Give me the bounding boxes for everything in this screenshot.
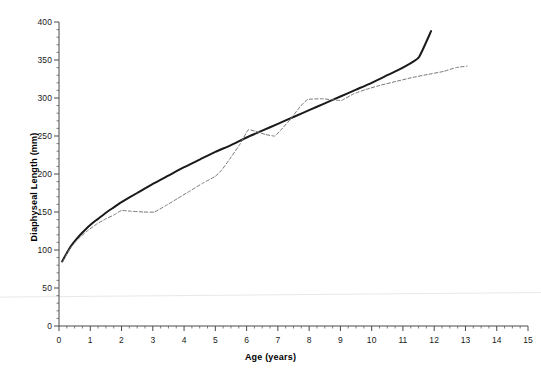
x-axis-title: Age (years) <box>0 352 541 362</box>
x-tick-label: 6 <box>235 336 259 345</box>
y-tick-label: 400 <box>16 18 52 27</box>
y-tick-label: 350 <box>16 56 52 65</box>
x-tick-label: 14 <box>485 336 509 345</box>
x-tick-label: 12 <box>422 336 446 345</box>
y-axis-title: Diaphyseal Length (mm) <box>29 87 39 287</box>
scan-artifact-hairline <box>0 293 541 298</box>
x-tick-label: 11 <box>391 336 415 345</box>
x-tick-label: 5 <box>203 336 227 345</box>
series-solid-reference-curve <box>62 31 431 261</box>
x-axis-tick-labels: 0123456789101112131415 <box>0 336 541 350</box>
x-tick-label: 1 <box>78 336 102 345</box>
x-tick-label: 3 <box>141 336 165 345</box>
x-tick-label: 13 <box>453 336 477 345</box>
data-series-group <box>62 31 467 261</box>
x-tick-label: 8 <box>297 336 321 345</box>
x-tick-label: 2 <box>110 336 134 345</box>
x-tick-label: 4 <box>172 336 196 345</box>
x-tick-label: 7 <box>266 336 290 345</box>
x-tick-label: 10 <box>360 336 384 345</box>
y-tick-label: 0 <box>16 322 52 331</box>
x-tick-label: 0 <box>47 336 71 345</box>
axis-lines-and-ticks <box>54 22 528 331</box>
series-dashed-individual-curve <box>63 66 467 261</box>
x-tick-label: 9 <box>328 336 352 345</box>
plot-area <box>0 0 541 380</box>
x-tick-label: 15 <box>516 336 540 345</box>
diaphyseal-length-chart: 050100150200250300350400 012345678910111… <box>0 0 541 380</box>
